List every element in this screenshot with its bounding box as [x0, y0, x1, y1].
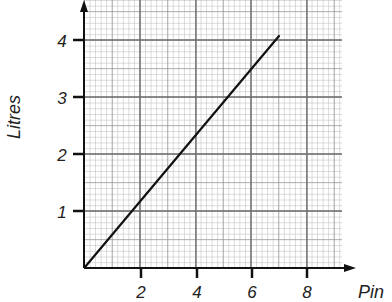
y-axis-title: Litres: [4, 95, 24, 139]
y-tick-2: 2: [56, 146, 67, 165]
x-tick-6: 6: [247, 283, 257, 302]
x-axis-title: Pin: [358, 282, 384, 302]
y-tick-4: 4: [57, 32, 66, 51]
x-axis: 2 4 6 8 Pin: [84, 264, 384, 302]
x-tick-8: 8: [302, 283, 312, 302]
x-tick-2: 2: [135, 283, 146, 302]
y-tick-1: 1: [57, 203, 66, 222]
x-axis-arrow-icon: [344, 264, 356, 272]
graph-paper-grid: [84, 0, 342, 268]
y-axis: 1 2 3 4 Litres: [4, 0, 88, 268]
x-tick-4: 4: [192, 283, 201, 302]
conversion-chart: 1 2 3 4 Litres 2 4 6 8 Pin: [0, 0, 392, 302]
y-tick-3: 3: [57, 89, 67, 108]
